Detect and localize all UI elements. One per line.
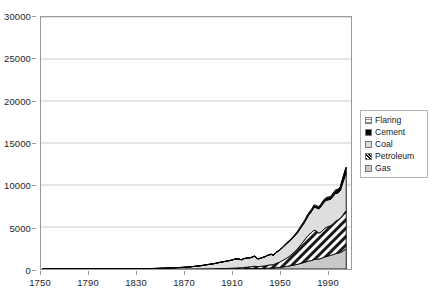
x-tick-mark — [88, 271, 89, 275]
y-tick-mark — [32, 58, 36, 59]
y-tick-mark — [32, 16, 36, 17]
y-tick-mark — [32, 101, 36, 102]
legend-swatch-medium-gray-icon — [365, 165, 372, 172]
y-tick-mark — [32, 228, 36, 229]
x-tick-mark — [184, 271, 185, 275]
x-tick-label: 1790 — [77, 277, 99, 288]
x-tick-mark — [328, 271, 329, 275]
legend-swatch-diagonal-hatch-icon — [365, 153, 372, 160]
chart-legend: FlaringCementCoalPetroleumGas — [360, 110, 428, 178]
y-tick-label: 10000 — [4, 180, 31, 191]
y-tick-mark — [32, 270, 36, 271]
legend-item-coal[interactable]: Coal — [365, 138, 424, 150]
x-tick-mark — [280, 271, 281, 275]
legend-swatch-grid-pattern-icon — [365, 117, 372, 124]
x-tick-label: 1830 — [125, 277, 147, 288]
legend-label: Flaring — [375, 115, 401, 126]
x-tick-label: 1950 — [269, 277, 291, 288]
y-axis: 050001000015000200002500030000 — [0, 16, 36, 270]
chart-container: 050001000015000200002500030000 175017901… — [0, 0, 437, 305]
y-tick-label: 15000 — [4, 138, 31, 149]
y-tick-label: 5000 — [9, 222, 31, 233]
y-tick-mark — [32, 185, 36, 186]
legend-swatch-light-gray-icon — [365, 141, 372, 148]
x-tick-label: 1990 — [317, 277, 339, 288]
legend-item-cement[interactable]: Cement — [365, 126, 424, 138]
x-tick-label: 1870 — [173, 277, 195, 288]
legend-item-gas[interactable]: Gas — [365, 162, 424, 174]
plot-area — [40, 16, 352, 270]
legend-swatch-solid-black-icon — [365, 129, 372, 136]
legend-label: Gas — [375, 163, 391, 174]
x-tick-mark — [136, 271, 137, 275]
stacked-area-series — [41, 17, 351, 269]
x-tick-mark — [232, 271, 233, 275]
x-tick-label: 1750 — [29, 277, 51, 288]
y-tick-label: 0 — [26, 265, 31, 276]
legend-item-petroleum[interactable]: Petroleum — [365, 150, 424, 162]
legend-label: Coal — [375, 139, 393, 150]
y-tick-label: 25000 — [4, 53, 31, 64]
legend-label: Cement — [375, 127, 405, 138]
y-tick-mark — [32, 143, 36, 144]
y-tick-label: 30000 — [4, 11, 31, 22]
legend-item-flaring[interactable]: Flaring — [365, 114, 424, 126]
y-tick-label: 20000 — [4, 95, 31, 106]
legend-label: Petroleum — [375, 151, 414, 162]
x-axis: 1750179018301870191019501990 — [40, 271, 352, 293]
x-tick-label: 1910 — [221, 277, 243, 288]
x-tick-mark — [40, 271, 41, 275]
